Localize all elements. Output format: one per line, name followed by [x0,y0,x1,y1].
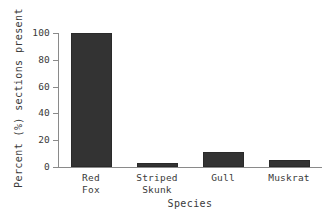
bar [137,163,178,167]
x-axis-category-label: Striped Skunk [124,172,190,196]
bar [71,33,112,167]
x-axis-category-label: Red Fox [58,172,124,196]
x-axis-category-label: Gull [190,172,256,184]
plot-area [58,33,322,167]
y-axis-tick-label: 100 [24,28,50,38]
y-axis-tick-label: 20 [24,135,50,145]
bar-chart-figure: Percent (%) sections present 02040608010… [0,0,326,220]
bar [269,160,310,167]
bar [203,152,244,167]
x-axis-category-label: Muskrat [256,172,322,184]
y-axis-tick-label: 40 [24,108,50,118]
x-axis-line [58,167,322,168]
y-axis-tick-label: 80 [24,55,50,65]
x-axis-title: Species [58,198,322,210]
y-axis-tick-label: 60 [24,82,50,92]
y-axis-tick-label: 0 [24,162,50,172]
